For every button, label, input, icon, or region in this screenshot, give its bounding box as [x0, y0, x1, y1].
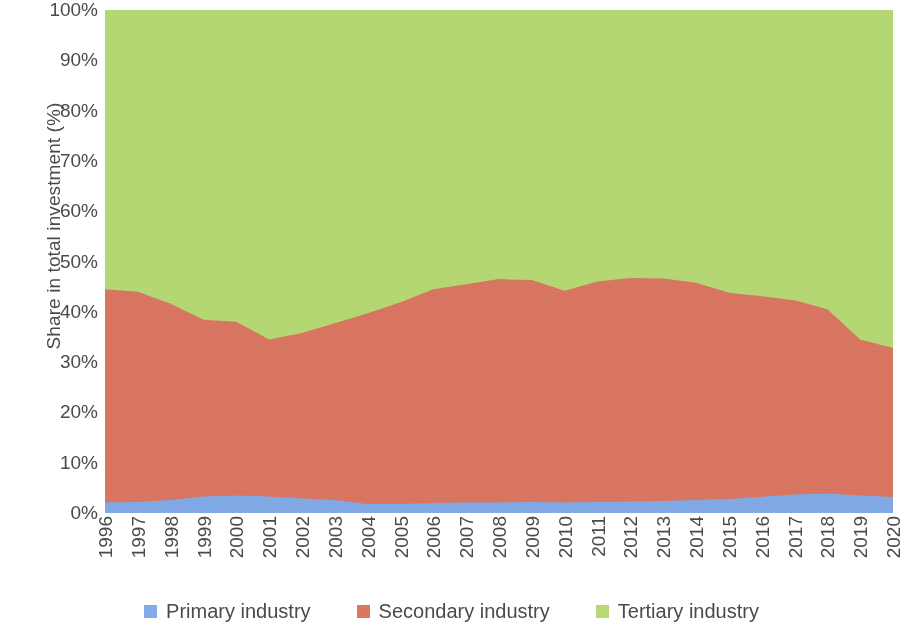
x-axis-tick-2012: 2012 [620, 516, 642, 590]
x-axis-tick-2011: 2011 [588, 516, 610, 590]
x-axis-tick-2018: 2018 [817, 516, 839, 590]
y-axis-tick-10: 10% [28, 452, 98, 474]
x-axis-tick-1999: 1999 [194, 516, 216, 590]
legend-swatch-secondary [357, 605, 370, 618]
x-axis-tick-2006: 2006 [423, 516, 445, 590]
legend-label: Secondary industry [379, 600, 550, 623]
x-axis-tick-labels: 1996199719981999200020012002200320042005… [105, 516, 893, 590]
x-axis-tick-1996: 1996 [95, 516, 117, 590]
y-axis-tick-50: 50% [28, 251, 98, 273]
stacked-area-chart: Share in total investment (%) 0%10%20%30… [0, 0, 903, 626]
x-axis-tick-2014: 2014 [686, 516, 708, 590]
x-axis-tick-2009: 2009 [522, 516, 544, 590]
x-axis-tick-2007: 2007 [456, 516, 478, 590]
x-axis-tick-2015: 2015 [719, 516, 741, 590]
x-axis-tick-2017: 2017 [785, 516, 807, 590]
x-axis-tick-1997: 1997 [128, 516, 150, 590]
legend-swatch-primary [144, 605, 157, 618]
y-axis-tick-100: 100% [28, 0, 98, 21]
y-axis-tick-30: 30% [28, 351, 98, 373]
area-series-svg [105, 10, 893, 513]
x-axis-tick-2003: 2003 [325, 516, 347, 590]
x-axis-tick-2001: 2001 [259, 516, 281, 590]
x-axis-tick-2019: 2019 [850, 516, 872, 590]
legend-item-tertiary-industry[interactable]: Tertiary industry [596, 600, 759, 623]
legend-swatch-tertiary [596, 605, 609, 618]
x-axis-tick-2002: 2002 [292, 516, 314, 590]
legend-label: Primary industry [166, 600, 310, 623]
y-axis-tick-90: 90% [28, 49, 98, 71]
x-axis-tick-2005: 2005 [391, 516, 413, 590]
y-axis-tick-40: 40% [28, 301, 98, 323]
y-axis-tick-labels: 0%10%20%30%40%50%60%70%80%90%100% [28, 0, 98, 523]
y-axis-tick-80: 80% [28, 100, 98, 122]
x-axis-tick-1998: 1998 [161, 516, 183, 590]
x-axis-tick-2008: 2008 [489, 516, 511, 590]
x-axis-tick-2020: 2020 [883, 516, 903, 590]
legend-item-primary-industry[interactable]: Primary industry [144, 600, 310, 623]
x-axis-tick-2010: 2010 [555, 516, 577, 590]
y-axis-tick-70: 70% [28, 150, 98, 172]
chart-legend: Primary industrySecondary industryTertia… [0, 597, 903, 625]
y-axis-tick-0: 0% [28, 502, 98, 524]
x-axis-tick-2000: 2000 [226, 516, 248, 590]
x-axis-tick-2013: 2013 [653, 516, 675, 590]
legend-item-secondary-industry[interactable]: Secondary industry [357, 600, 550, 623]
plot-area [105, 10, 893, 513]
x-axis-tick-2004: 2004 [358, 516, 380, 590]
legend-label: Tertiary industry [618, 600, 759, 623]
y-axis-tick-60: 60% [28, 200, 98, 222]
x-axis-tick-2016: 2016 [752, 516, 774, 590]
y-axis-tick-20: 20% [28, 401, 98, 423]
